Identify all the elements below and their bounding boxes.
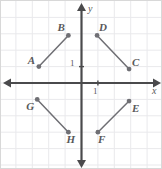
- segment-ab: [39, 35, 69, 66]
- data-point-e: [127, 99, 132, 104]
- y-axis-label: y: [88, 4, 92, 14]
- data-point-c: [127, 67, 132, 72]
- plot-canvas: [1, 1, 162, 169]
- data-point-a: [36, 64, 41, 69]
- y-axis-arrow-down: [77, 160, 86, 168]
- point-label-a: A: [28, 55, 35, 66]
- segment-dc: [97, 35, 129, 69]
- data-point-b: [66, 33, 71, 38]
- x-axis-tick-label: 1: [93, 87, 98, 96]
- point-label-c: C: [132, 57, 139, 68]
- y-axis-arrow-up: [77, 3, 86, 11]
- data-point-g: [35, 97, 40, 102]
- point-label-e: E: [132, 103, 139, 114]
- x-axis-arrow-left: [3, 79, 11, 88]
- point-label-b: B: [57, 22, 64, 33]
- point-label-g: G: [26, 101, 34, 112]
- point-label-d: D: [99, 22, 107, 33]
- point-label-h: H: [66, 134, 75, 145]
- y-axis-tick-label: 1: [70, 59, 75, 68]
- point-label-f: F: [98, 134, 105, 145]
- axis-lines: [3, 3, 161, 168]
- x-axis-label: x: [152, 86, 156, 96]
- data-point-d: [95, 33, 100, 38]
- segment-fe: [98, 101, 129, 132]
- coordinate-plane-figure: y x 1 1 ABCDEFGH: [0, 0, 162, 169]
